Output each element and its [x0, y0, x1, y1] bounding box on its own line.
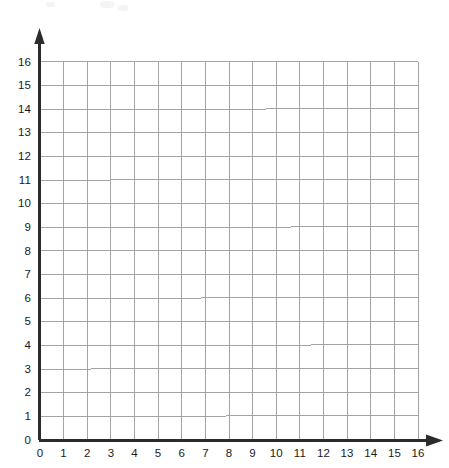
y-tick-label: 15	[18, 79, 31, 91]
y-tick-label: 0	[25, 434, 32, 446]
y-tick-label: 14	[18, 103, 31, 115]
x-tick-label: 1	[60, 447, 67, 459]
x-tick-label: 15	[388, 447, 401, 459]
x-tick-label: 7	[202, 447, 209, 459]
y-tick-label: 9	[25, 221, 32, 233]
x-tick-label: 3	[108, 447, 115, 459]
y-tick-label: 3	[25, 363, 32, 375]
x-tick-label: 10	[270, 447, 283, 459]
y-tick-label: 6	[25, 292, 32, 304]
x-tick-label: 8	[226, 447, 233, 459]
y-tick-label: 11	[19, 174, 31, 186]
x-tick-label: 11	[294, 447, 306, 459]
x-axis-arrow-icon	[426, 435, 443, 447]
x-tick-label: 16	[412, 447, 425, 459]
y-tick-label: 4	[25, 339, 32, 351]
x-tick-label: 2	[84, 447, 91, 459]
coordinate-grid-figure: 0 1 2 3 4 5 6 7 8 9 10 11 12 13 14 15 16…	[0, 0, 449, 468]
y-tick-label: 5	[25, 315, 32, 327]
x-tick-label: 5	[155, 447, 162, 459]
y-tick-label: 10	[18, 197, 31, 209]
y-tick-label: 1	[25, 410, 32, 422]
y-tick-label: 2	[25, 386, 32, 398]
y-axis-arrow-icon	[34, 28, 44, 44]
y-axis-tick-labels: 0 1 2 3 4 5 6 7 8 9 10 11 12 13 14 15 16	[18, 56, 32, 446]
x-tick-label: 4	[131, 447, 138, 459]
y-tick-label: 16	[18, 56, 31, 68]
x-tick-label: 14	[364, 447, 377, 459]
x-tick-label: 9	[249, 447, 256, 459]
x-tick-label: 6	[179, 447, 186, 459]
y-tick-label: 12	[18, 150, 31, 162]
y-tick-label: 13	[18, 126, 31, 138]
x-axis-tick-labels: 0 1 2 3 4 5 6 7 8 9 10 11 12 13 14 15 16	[37, 447, 425, 459]
x-tick-label: 12	[317, 447, 330, 459]
coordinate-grid-svg: 0 1 2 3 4 5 6 7 8 9 10 11 12 13 14 15 16…	[0, 0, 449, 468]
y-tick-label: 8	[25, 245, 32, 257]
y-tick-label: 7	[25, 268, 32, 280]
x-tick-label: 13	[341, 447, 354, 459]
x-tick-label: 0	[37, 447, 44, 459]
